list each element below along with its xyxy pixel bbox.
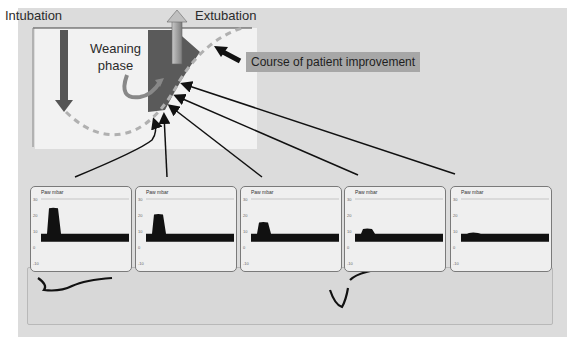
- y-tick-label: -10: [347, 261, 353, 266]
- monitor-y-axis: 3020100-10: [347, 197, 355, 267]
- weaning-label-line2: phase: [90, 57, 141, 74]
- monitor-y-axis: 3020100-10: [33, 197, 41, 267]
- pressure-waveform: [251, 195, 339, 269]
- y-tick-label: 10: [453, 229, 457, 234]
- y-tick-label: -10: [33, 261, 39, 266]
- y-tick-label: 30: [138, 197, 142, 202]
- course-of-improvement-label: Course of patient improvement: [246, 52, 420, 72]
- handwritten-mark-1: [38, 278, 112, 291]
- weaning-label-line1: Weaning: [90, 40, 141, 57]
- pressure-waveform-monitor: Paw mbar3020100-10: [30, 186, 132, 272]
- pressure-waveform: [355, 195, 443, 269]
- pointer-line-3: [170, 106, 262, 177]
- pressure-waveform-monitor: Paw mbar3020100-10: [240, 186, 342, 272]
- y-tick-label: 30: [33, 197, 37, 202]
- monitor-y-axis: 3020100-10: [243, 197, 251, 267]
- y-tick-label: 20: [453, 213, 457, 218]
- intubation-down-arrow: [55, 30, 73, 112]
- pressure-curve: [461, 233, 549, 242]
- y-tick-label: 20: [243, 213, 247, 218]
- weaning-phase-label: Weaning phase: [90, 40, 141, 74]
- y-tick-label: 20: [33, 213, 37, 218]
- y-tick-label: 30: [347, 197, 351, 202]
- y-tick-label: -10: [138, 261, 144, 266]
- pressure-curve: [355, 229, 443, 242]
- pressure-waveform: [461, 195, 549, 269]
- y-tick-label: 10: [347, 229, 351, 234]
- y-tick-label: 0: [347, 245, 349, 250]
- course-pointer-arrow: [214, 46, 240, 61]
- pointer-line-5: [183, 84, 455, 174]
- pointer-line-4: [176, 96, 358, 175]
- monitor-y-axis: 3020100-10: [453, 197, 461, 267]
- y-tick-label: 30: [243, 197, 247, 202]
- y-tick-label: 30: [453, 197, 457, 202]
- intubation-label: Intubation: [5, 8, 62, 23]
- pressure-waveform-monitor: Paw mbar3020100-10: [344, 186, 446, 272]
- y-tick-label: 0: [138, 245, 140, 250]
- y-tick-label: 10: [243, 229, 247, 234]
- pointer-line-2: [164, 115, 167, 177]
- y-tick-label: 10: [138, 229, 142, 234]
- pressure-curve: [41, 208, 129, 242]
- y-tick-label: -10: [243, 261, 249, 266]
- monitor-y-axis: 3020100-10: [138, 197, 146, 267]
- pressure-waveform: [41, 195, 129, 269]
- y-tick-label: 0: [243, 245, 245, 250]
- y-tick-label: 20: [347, 213, 351, 218]
- y-tick-label: 10: [33, 229, 37, 234]
- pressure-curve: [251, 222, 339, 242]
- y-tick-label: 0: [33, 245, 35, 250]
- pressure-waveform: [146, 195, 234, 269]
- extubation-label: Extubation: [195, 8, 256, 23]
- y-tick-label: -10: [453, 261, 459, 266]
- pressure-waveform-monitor: Paw mbar3020100-10: [135, 186, 237, 272]
- y-tick-label: 0: [453, 245, 455, 250]
- y-tick-label: 20: [138, 213, 142, 218]
- handwritten-checkmark: [330, 268, 395, 307]
- pressure-waveform-monitor: Paw mbar3020100-10: [450, 186, 552, 272]
- pressure-curve: [146, 214, 234, 242]
